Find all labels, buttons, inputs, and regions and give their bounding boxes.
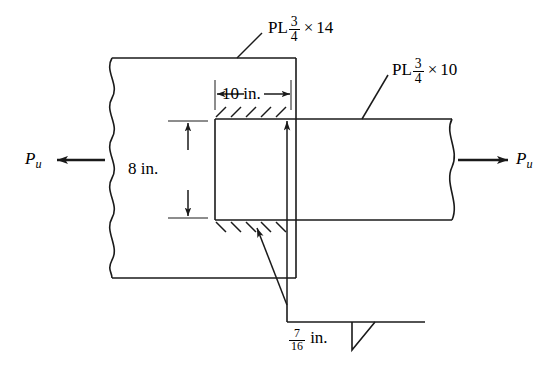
lap-plate-denominator: 4	[413, 72, 424, 86]
label-weld-size: 716 in.	[288, 328, 328, 353]
lap-plate-fraction: 34	[413, 57, 424, 85]
dimension-8in	[168, 121, 208, 218]
diagram-canvas	[0, 0, 558, 373]
break-line-right	[450, 119, 455, 220]
weld-size-fraction: 716	[289, 328, 305, 353]
lap-plate-outline	[215, 119, 454, 220]
label-dimension-10in: 10 in.	[222, 85, 261, 102]
label-lap-plate: PL34×10	[392, 57, 457, 85]
lap-plate-times: ×	[425, 60, 441, 79]
weld-size-denominator: 16	[289, 341, 305, 353]
weld-size-unit: in.	[310, 328, 327, 347]
force-right-subscript: u	[526, 157, 532, 171]
label-force-left: Pu	[25, 150, 42, 170]
label-force-right: Pu	[516, 150, 533, 170]
main-plate-fraction: 34	[289, 15, 300, 43]
weld-hatching-top	[216, 107, 286, 117]
lap-plate-numerator: 3	[413, 57, 424, 72]
lap-plate-width: 10	[440, 60, 457, 79]
label-dimension-8in: 8 in.	[128, 160, 158, 177]
main-plate-times: ×	[301, 18, 317, 37]
lap-plate-prefix: PL	[392, 60, 412, 79]
force-left-symbol: P	[25, 149, 35, 168]
main-plate-denominator: 4	[289, 30, 300, 44]
fillet-weld-triangle	[352, 322, 375, 350]
leader-line-lap-plate	[362, 75, 388, 119]
weld-hatching-bottom	[216, 222, 286, 232]
label-main-plate: PL34×14	[268, 15, 333, 43]
force-right-symbol: P	[516, 149, 526, 168]
break-line-left	[110, 58, 115, 278]
force-left-subscript: u	[35, 157, 41, 171]
leader-line-main-plate	[237, 33, 262, 58]
main-plate-numerator: 3	[289, 15, 300, 30]
main-plate-width: 14	[316, 18, 333, 37]
main-plate-prefix: PL	[268, 18, 288, 37]
engineering-diagram: PL34×14 PL34×10 10 in. 8 in. Pu Pu 716 i…	[0, 0, 558, 373]
leader-line-weld-bottom	[257, 228, 287, 305]
